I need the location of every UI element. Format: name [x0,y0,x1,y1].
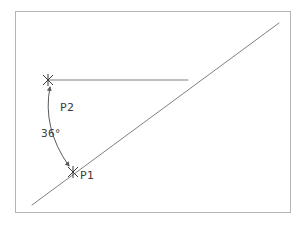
point-label-p2: P2 [60,101,74,114]
angle-label: 36° [41,127,61,139]
diagram-svg: P2 36° P1 [0,0,306,227]
point-label-p1: P1 [80,169,94,182]
diagram-border [16,12,291,213]
geometry-diagram-canvas: P2 36° P1 [0,0,306,227]
